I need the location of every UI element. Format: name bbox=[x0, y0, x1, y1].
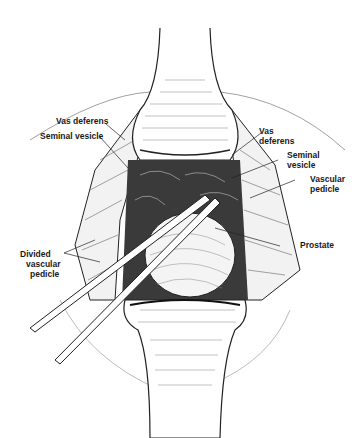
label-vascular-pedicle: Vascular pedicle bbox=[310, 174, 345, 194]
label-divided-vascular-pedicle: Divided vascular pedicle bbox=[20, 249, 61, 279]
label-seminal-vesicle-right: Seminal vesicle bbox=[287, 150, 320, 170]
label-line: Vascular bbox=[310, 174, 345, 184]
label-line: Vas bbox=[259, 126, 294, 136]
label-line: vesicle bbox=[287, 160, 320, 170]
label-prostate: Prostate bbox=[300, 240, 334, 250]
label-line: Seminal bbox=[287, 150, 320, 160]
label-line: pedicle bbox=[310, 184, 345, 194]
label-line: pedicle bbox=[20, 269, 61, 279]
label-seminal-vesicle-left: Seminal vesicle bbox=[40, 131, 103, 141]
label-line: vascular bbox=[20, 259, 61, 269]
label-vas-deferens-right: Vas deferens bbox=[259, 126, 294, 146]
label-line: deferens bbox=[259, 136, 294, 146]
label-line: Divided bbox=[20, 249, 61, 259]
surgical-illustration bbox=[0, 0, 362, 438]
label-vas-deferens-left: Vas deferens bbox=[56, 116, 108, 126]
